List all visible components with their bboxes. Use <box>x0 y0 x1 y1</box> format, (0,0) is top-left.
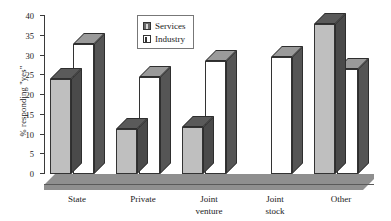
category-label-line2: venture <box>176 206 242 218</box>
y-tick-label-25: 25 <box>14 70 34 80</box>
floor-top-plane <box>44 174 374 190</box>
legend-label-industry: Industry <box>155 34 185 44</box>
y-tick-label-35: 35 <box>14 31 34 41</box>
category-label-line1: Other <box>308 194 374 206</box>
bar-front-face <box>116 129 137 174</box>
y-tick-20 <box>40 94 45 95</box>
category-label-joint-stock: Jointstock <box>242 194 308 217</box>
category-label-joint-venture: Jointventure <box>176 194 242 217</box>
y-tick-40 <box>40 15 45 16</box>
legend-item-services: Services <box>143 19 186 32</box>
bar-front-face <box>271 57 292 174</box>
y-tick-label-10: 10 <box>14 130 34 140</box>
category-label-private: Private <box>110 194 176 206</box>
floor-front-edge <box>44 184 374 185</box>
category-label-line1: Private <box>110 194 176 206</box>
y-tick-5 <box>40 153 45 154</box>
bar-front-face <box>182 127 203 174</box>
bar-front-face <box>314 24 335 174</box>
category-label-other: Other <box>308 194 374 206</box>
bar-group-joint-stock <box>248 16 314 174</box>
bar-services-state <box>50 79 71 174</box>
y-tick-label-15: 15 <box>14 110 34 120</box>
y-tick-label-40: 40 <box>14 11 34 21</box>
plot-area: 0510152025303540 StatePrivateJointventur… <box>44 16 374 174</box>
y-tick-label-20: 20 <box>14 90 34 100</box>
y-tick-label-30: 30 <box>14 51 34 61</box>
legend-item-industry: Industry <box>143 32 186 45</box>
y-tick-10 <box>40 134 45 135</box>
bar-side-face <box>160 66 171 174</box>
bar-side-face <box>71 68 82 174</box>
chart-legend: Services Industry <box>137 15 194 49</box>
industry-swatch-icon <box>143 35 151 43</box>
bar-industry-joint-stock <box>271 57 292 174</box>
chart-floor <box>44 174 374 190</box>
bar-services-other <box>314 24 335 174</box>
bar-side-face <box>226 50 237 174</box>
bar-services-joint-venture <box>182 127 203 174</box>
y-tick-15 <box>40 114 45 115</box>
bar-group-state <box>50 16 116 174</box>
bar-group-other <box>314 16 380 174</box>
category-label-line1: State <box>44 194 110 206</box>
bar-chart: % responding "yes" 0510152025303540 Stat… <box>0 0 391 221</box>
category-label-line2: stock <box>242 206 308 218</box>
y-tick-30 <box>40 55 45 56</box>
category-label-state: State <box>44 194 110 206</box>
bar-side-face <box>358 58 369 174</box>
y-tick-35 <box>40 35 45 36</box>
bar-services-private <box>116 129 137 174</box>
bar-side-face <box>335 13 346 174</box>
bar-side-face <box>292 46 303 174</box>
services-swatch-icon <box>143 22 151 30</box>
category-label-line1: Joint <box>176 194 242 206</box>
y-tick-label-5: 5 <box>14 149 34 159</box>
category-label-line1: Joint <box>242 194 308 206</box>
legend-label-services: Services <box>155 21 186 31</box>
y-tick-25 <box>40 74 45 75</box>
y-axis-line <box>44 16 45 174</box>
bar-front-face <box>50 79 71 174</box>
y-tick-label-0: 0 <box>14 169 34 179</box>
bar-side-face <box>94 33 105 174</box>
